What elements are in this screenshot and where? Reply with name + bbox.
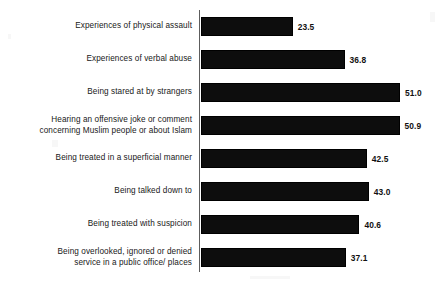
bar-row: Being treated with suspicion 40.6 [0,208,447,241]
bar-row: Experiences of physical assault 23.5 [0,10,447,43]
category-label: Hearing an offensive joke or comment con… [2,109,192,142]
bar-value-label: 51.0 [405,88,422,98]
category-label: Being overlooked, ignored or denied serv… [2,241,192,274]
bar-value-label: 40.6 [364,220,381,230]
bar-row: Being talked down to 43.0 [0,175,447,208]
bar-value-label: 37.1 [351,253,368,263]
bar-track: 50.9 [201,116,421,135]
bar [201,149,367,168]
bar [201,116,400,135]
category-label: Experiences of verbal abuse [2,43,192,76]
bar-track: 40.6 [201,215,381,234]
bar-row: Experiences of verbal abuse 36.8 [0,43,447,76]
bar [201,83,400,102]
category-label: Being treated with suspicion [2,208,192,241]
bar-row: Being overlooked, ignored or denied serv… [0,241,447,274]
bar [201,17,293,36]
bar-row-list: Experiences of physical assault 23.5 Exp… [0,10,447,274]
bar-track: 42.5 [201,149,388,168]
bar-row: Being treated in a superficial manner 42… [0,142,447,175]
category-label: Being treated in a superficial manner [2,142,192,175]
bar [201,50,345,69]
bar-value-label: 36.8 [350,55,367,65]
bar-track: 37.1 [201,248,367,267]
bar-track: 23.5 [201,17,314,36]
category-label: Being stared at by strangers [2,76,192,109]
bar [201,248,346,267]
bar-row: Being stared at by strangers 51.0 [0,76,447,109]
bar-value-label: 50.9 [405,121,422,131]
bar-track: 51.0 [201,83,422,102]
bar-chart: Experiences of physical assault 23.5 Exp… [0,0,447,284]
bar [201,215,359,234]
bar-value-label: 23.5 [298,22,315,32]
bar-row: Hearing an offensive joke or comment con… [0,109,447,142]
bar-value-label: 43.0 [374,187,391,197]
plot-area: Experiences of physical assault 23.5 Exp… [0,0,447,284]
bar-value-label: 42.5 [372,154,389,164]
bar-track: 43.0 [201,182,390,201]
bar-track: 36.8 [201,50,366,69]
category-label: Experiences of physical assault [2,10,192,43]
category-label: Being talked down to [2,175,192,208]
bar [201,182,369,201]
